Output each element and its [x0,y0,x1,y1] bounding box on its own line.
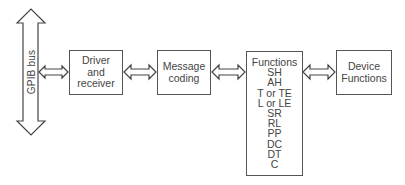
arrow-functions-device-icon [303,65,335,79]
functions-block: Functions SH AH T or TE L or LE SR RL PP… [246,51,303,176]
arrow-driver-message-icon [124,65,156,79]
block-line: Device [348,61,380,73]
driver-receiver-block: Driver and receiver [69,50,123,95]
block-line: Message [163,61,206,73]
block-line: coding [169,73,200,85]
gpib-block-diagram: GPIB bus Driver and receiver Message cod… [0,0,405,185]
gpib-bus-label: GPIB bus [26,50,37,94]
arrow-bus-driver-icon [39,66,68,78]
message-coding-block: Message coding [157,50,211,95]
arrow-message-functions-icon [212,65,245,79]
device-functions-block: Device Functions [336,50,392,95]
block-line: receiver [77,78,114,90]
block-line: Functions [341,73,387,85]
function-item: C [271,159,279,169]
